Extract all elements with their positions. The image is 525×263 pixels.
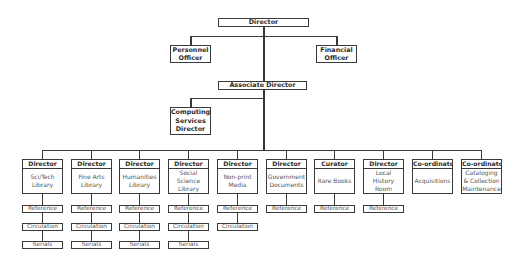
connector-staff-horizontal bbox=[190, 36, 337, 38]
connector-sub-vertical bbox=[383, 194, 385, 205]
unit-title: Director bbox=[169, 160, 208, 169]
unit-box: DirectorGovernment Documents bbox=[266, 159, 307, 194]
sub-unit-box: Reference bbox=[363, 205, 404, 213]
sub-unit-box: Reference bbox=[168, 205, 209, 213]
connector-sub-vertical bbox=[139, 194, 141, 241]
connector-sub-vertical bbox=[286, 194, 288, 205]
unit-title: Co-ordinator bbox=[462, 160, 501, 169]
associate-director-box: Associate Director bbox=[218, 81, 307, 90]
financial-officer-box: Financial Officer bbox=[316, 45, 357, 63]
unit-box: CuratorRare Books bbox=[314, 159, 355, 194]
sub-unit-box: Serials bbox=[71, 241, 112, 249]
unit-box: DirectorLocal History Room bbox=[363, 159, 404, 194]
connector-sub-vertical bbox=[188, 194, 190, 241]
unit-title: Director bbox=[23, 160, 62, 169]
connector-computing-drop bbox=[190, 98, 192, 107]
connector-units-horizontal bbox=[42, 150, 482, 152]
unit-box: Co-ordinatorAcquisitions bbox=[412, 159, 453, 194]
computing-services-box: Computing Services Director bbox=[170, 107, 211, 135]
sub-unit-box: Serials bbox=[168, 241, 209, 249]
sub-unit-box: Serials bbox=[22, 241, 63, 249]
unit-box: DirectorHumanities Library bbox=[119, 159, 160, 194]
unit-box: DirectorSocial Science Library bbox=[168, 159, 209, 194]
connector-financial-drop bbox=[336, 36, 338, 45]
associate-director-label: Associate Director bbox=[229, 81, 295, 90]
unit-name: Social Science Library bbox=[169, 170, 208, 194]
sub-unit-box: Circulation bbox=[168, 223, 209, 231]
computing-services-label: Computing Services Director bbox=[171, 108, 210, 134]
unit-name: Local History Room bbox=[364, 170, 403, 194]
personnel-officer-box: Personnel Officer bbox=[170, 45, 211, 63]
sub-unit-box: Reference bbox=[119, 205, 160, 213]
connector-personnel-drop bbox=[190, 36, 192, 45]
connector-sub-vertical bbox=[91, 194, 93, 241]
unit-name: Rare Books bbox=[315, 170, 354, 194]
unit-name: Sci/Tech Library bbox=[23, 170, 62, 194]
unit-box: Co-ordinatorCataloging & Collection Main… bbox=[461, 159, 502, 194]
connector-sub-vertical bbox=[334, 194, 336, 205]
unit-title: Co-ordinator bbox=[413, 160, 452, 169]
unit-title: Director bbox=[267, 160, 306, 169]
sub-unit-box: Reference bbox=[314, 205, 355, 213]
unit-box: DirectorFine Arts Library bbox=[71, 159, 112, 194]
connector-sub-vertical bbox=[42, 194, 44, 241]
unit-title: Director bbox=[218, 160, 257, 169]
sub-unit-box: Circulation bbox=[217, 223, 258, 231]
director-box: Director bbox=[218, 18, 309, 27]
unit-name: Government Documents bbox=[267, 170, 306, 194]
unit-name: Non-print Media bbox=[218, 170, 257, 194]
unit-name: Fine Arts Library bbox=[72, 170, 111, 194]
sub-unit-box: Circulation bbox=[22, 223, 63, 231]
unit-title: Director bbox=[120, 160, 159, 169]
sub-unit-box: Reference bbox=[217, 205, 258, 213]
unit-box: DirectorSci/Tech Library bbox=[22, 159, 63, 194]
unit-title: Curator bbox=[315, 160, 354, 169]
sub-unit-box: Circulation bbox=[71, 223, 112, 231]
sub-unit-box: Reference bbox=[71, 205, 112, 213]
unit-title: Director bbox=[72, 160, 111, 169]
unit-box: DirectorNon-print Media bbox=[217, 159, 258, 194]
personnel-officer-label: Personnel Officer bbox=[171, 46, 210, 63]
sub-unit-box: Serials bbox=[119, 241, 160, 249]
sub-unit-box: Circulation bbox=[119, 223, 160, 231]
director-label: Director bbox=[249, 18, 278, 27]
sub-unit-box: Reference bbox=[22, 205, 63, 213]
sub-unit-box: Reference bbox=[266, 205, 307, 213]
unit-name: Acquisitions bbox=[413, 170, 452, 194]
unit-name: Cataloging & Collection Maintenance bbox=[462, 170, 501, 194]
unit-name: Humanities Library bbox=[120, 170, 159, 194]
connector-computing-horizontal bbox=[190, 98, 264, 100]
financial-officer-label: Financial Officer bbox=[317, 46, 356, 63]
unit-title: Director bbox=[364, 160, 403, 169]
